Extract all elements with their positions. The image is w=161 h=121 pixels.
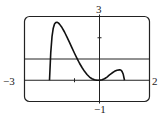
horizontal-lines	[25, 59, 150, 80]
chart-plot	[0, 0, 161, 121]
ymin-label: −1	[94, 104, 106, 115]
xmax-label: 2	[152, 76, 158, 87]
xmin-label: −3	[3, 76, 15, 87]
function-curve	[50, 22, 125, 80]
ymax-label: 3	[96, 4, 102, 15]
